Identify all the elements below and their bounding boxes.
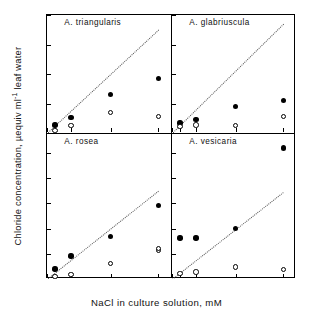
data-point-open-circle [281, 114, 286, 119]
y-axis-label-post: leaf water [13, 47, 23, 93]
data-point-open-circle [193, 269, 198, 274]
data-point-open-circle [52, 274, 57, 279]
panel-a-rosea: A. rosea02004006008001000050150400700 [47, 134, 171, 279]
panel-a-triangularis: A. triangularis0200400600800 [47, 15, 171, 133]
x-tick [111, 274, 112, 278]
panel-a-vesicaria: A. vesicaria050150400700 [172, 134, 296, 279]
y-tick [47, 45, 51, 46]
data-point-open-circle [193, 122, 198, 127]
data-point-filled-circle [68, 115, 73, 120]
data-point-filled-circle [108, 234, 113, 239]
y-tick [172, 254, 176, 255]
y-axis-label-pre: Chloride concentration, µequiv ml [13, 99, 23, 245]
reference-line [47, 30, 159, 133]
plot-frame: A. triangularis0200400600800A. glabriusc… [46, 14, 295, 278]
panel-title-a-rosea: A. rosea [64, 137, 98, 146]
y-tick [172, 178, 176, 179]
data-point-filled-circle [233, 226, 238, 231]
data-point-filled-circle [156, 76, 161, 81]
x-tick [283, 128, 284, 132]
y-tick [172, 104, 176, 105]
data-point-filled-circle [281, 98, 286, 103]
y-tick [172, 74, 176, 75]
y-tick [47, 104, 51, 105]
panel-title-a-triangularis: A. triangularis [64, 18, 121, 27]
y-tick [47, 203, 51, 204]
reference-line [172, 192, 284, 279]
y-tick [47, 178, 51, 179]
data-point-open-circle [233, 123, 238, 128]
panel-title-a-glabriuscula: A. glabriuscula [189, 18, 249, 27]
y-tick [47, 229, 51, 230]
data-point-open-circle [156, 114, 161, 119]
y-tick [172, 203, 176, 204]
x-tick [236, 274, 237, 278]
data-point-open-circle [52, 128, 57, 133]
y-tick [172, 15, 176, 16]
y-tick [172, 45, 176, 46]
data-point-filled-circle [233, 104, 238, 109]
y-axis-label: Chloride concentration, µequiv ml-1 leaf… [11, 11, 23, 281]
data-point-open-circle [177, 271, 182, 276]
y-tick [47, 15, 51, 16]
data-point-open-circle [108, 110, 113, 115]
data-point-open-circle [68, 272, 73, 277]
y-axis-label-exponent: -1 [11, 92, 18, 99]
data-point-open-circle [68, 123, 73, 128]
y-tick [47, 153, 51, 154]
y-tick [47, 74, 51, 75]
x-axis-label: NaCl in culture solution, mM [0, 297, 313, 308]
data-point-open-circle [281, 267, 286, 272]
data-point-filled-circle [193, 235, 198, 240]
data-point-filled-circle [177, 235, 182, 240]
x-tick [283, 274, 284, 278]
data-point-filled-circle [52, 266, 57, 271]
reference-line [47, 191, 159, 279]
figure: Chloride concentration, µequiv ml-1 leaf… [0, 0, 313, 318]
x-tick [196, 128, 197, 132]
x-tick [236, 128, 237, 132]
data-point-filled-circle [52, 122, 57, 127]
y-tick [47, 254, 51, 255]
panel-title-a-vesicaria: A. vesicaria [189, 137, 237, 146]
data-point-open-circle [108, 261, 113, 266]
x-tick [71, 128, 72, 132]
reference-line [172, 24, 284, 133]
data-point-filled-circle [68, 253, 73, 258]
data-point-open-circle [177, 124, 182, 129]
x-tick [158, 274, 159, 278]
y-tick [172, 229, 176, 230]
data-point-filled-circle [281, 145, 286, 150]
data-point-filled-circle [108, 92, 113, 97]
data-point-filled-circle [156, 203, 161, 208]
x-tick [158, 128, 159, 132]
data-point-open-circle [233, 264, 238, 269]
y-tick [172, 153, 176, 154]
x-tick [111, 128, 112, 132]
panel-a-glabriuscula: A. glabriuscula [172, 15, 296, 133]
